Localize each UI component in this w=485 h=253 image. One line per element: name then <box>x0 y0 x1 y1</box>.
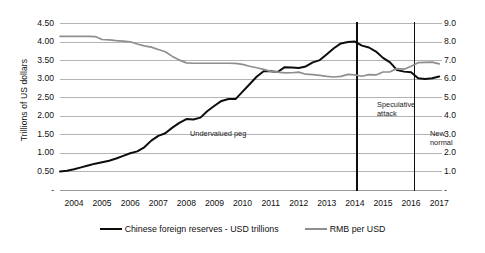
legend-swatch-icon <box>100 228 122 231</box>
legend-label: Chinese foreign reserves - USD trillions <box>125 224 279 234</box>
legend-item[interactable]: Chinese foreign reserves - USD trillions <box>100 224 279 234</box>
series-paths <box>0 0 485 253</box>
annotation-speculative-attack-line1: Speculative <box>377 100 415 109</box>
legend-swatch-icon <box>305 228 327 230</box>
dual-axis-line-chart: Trillions of US dollars 4.504.003.503.00… <box>0 0 485 253</box>
annotation-undervalued-peg: Undervalued peg <box>190 129 246 138</box>
chart-legend: Chinese foreign reserves - USD trillions… <box>0 224 485 234</box>
annotation-new-normal: New normal <box>430 129 453 147</box>
annotation-new-normal-line2: normal <box>430 138 453 147</box>
legend-label: RMB per USD <box>330 224 386 234</box>
annotation-speculative-attack: Speculative attack <box>377 100 415 118</box>
annotation-speculative-attack-line2: attack <box>377 109 397 118</box>
annotation-new-normal-line1: New <box>430 129 445 138</box>
legend-item[interactable]: RMB per USD <box>305 224 386 234</box>
